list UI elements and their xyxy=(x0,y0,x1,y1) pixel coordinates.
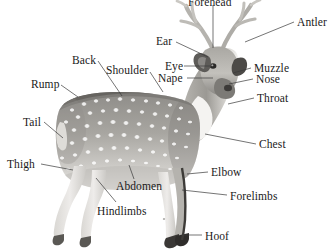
label-forehead: Forehead xyxy=(188,0,232,8)
label-thigh: Thigh xyxy=(7,158,35,170)
label-chest: Chest xyxy=(259,138,286,150)
label-ear: Ear xyxy=(156,35,172,47)
label-nape: Nape xyxy=(158,72,183,84)
deer-anatomy-diagram: ForeheadAntlerEarBackShoulderEyeMuzzleNa… xyxy=(0,0,332,250)
label-elbow: Elbow xyxy=(211,166,242,178)
eye-highlight xyxy=(211,64,213,66)
label-rump: Rump xyxy=(31,78,60,90)
label-antler: Antler xyxy=(297,16,327,28)
label-abdomen: Abdomen xyxy=(116,180,162,192)
label-shoulder: Shoulder xyxy=(106,64,148,76)
label-back: Back xyxy=(72,54,96,66)
label-nose: Nose xyxy=(256,73,280,85)
label-hoof: Hoof xyxy=(205,230,229,242)
nose-shape xyxy=(224,85,232,91)
label-tail: Tail xyxy=(23,116,41,128)
label-throat: Throat xyxy=(257,92,288,104)
label-hindlimbs: Hindlimbs xyxy=(97,205,146,217)
label-forelimbs: Forelimbs xyxy=(230,190,278,202)
ear-far-shape xyxy=(232,58,247,76)
label-eye: Eye xyxy=(165,60,183,72)
